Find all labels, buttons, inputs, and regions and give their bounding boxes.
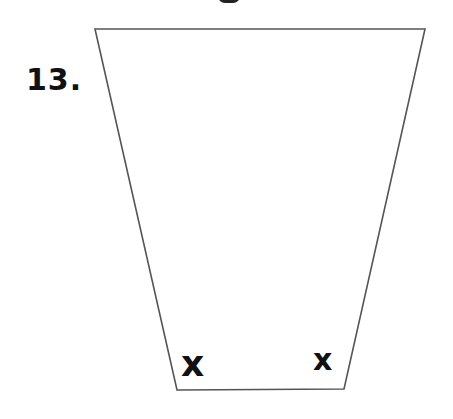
angle-mark-bottom-left: x bbox=[181, 346, 204, 382]
worksheet-problem: 13. x x bbox=[0, 0, 453, 419]
trapezoid-figure bbox=[0, 0, 453, 419]
angle-mark-bottom-right: x bbox=[313, 345, 332, 375]
trapezoid-outline bbox=[95, 29, 425, 390]
